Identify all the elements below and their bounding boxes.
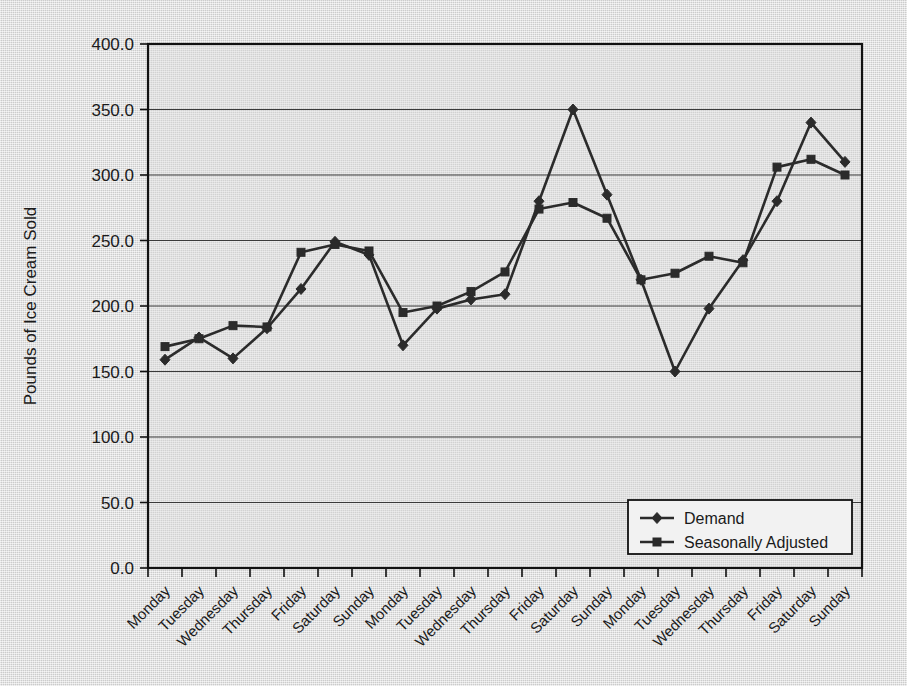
line-chart-figure: 400.0350.0300.0250.0200.0150.0100.050.00… (0, 0, 907, 686)
y-axis-ticks-group: 400.0350.0300.0250.0200.0150.0100.050.00… (91, 35, 148, 578)
data-point-marker (297, 248, 305, 256)
data-point-marker (433, 302, 441, 310)
data-point-marker (365, 247, 373, 255)
data-point-marker (671, 269, 679, 277)
data-point-marker (161, 343, 169, 351)
legend-marker-square-icon (653, 538, 661, 546)
y-tick-label: 300.0 (91, 166, 134, 185)
y-tick-label: 50.0 (101, 494, 134, 513)
data-point-marker (807, 155, 815, 163)
data-point-marker (229, 322, 237, 330)
data-point-marker (467, 288, 475, 296)
data-point-marker (841, 171, 849, 179)
data-point-marker (569, 199, 577, 207)
y-tick-label: 350.0 (91, 101, 134, 120)
data-point-marker (705, 252, 713, 260)
data-point-marker (773, 163, 781, 171)
y-tick-label: 200.0 (91, 297, 134, 316)
data-point-marker (331, 240, 339, 248)
data-point-marker (739, 259, 747, 267)
y-tick-label: 400.0 (91, 35, 134, 54)
x-axis-labels-group: MondayTuesdayWednesdayThursdayFridaySatu… (123, 582, 853, 650)
y-tick-label: 100.0 (91, 428, 134, 447)
data-point-marker (399, 309, 407, 317)
data-point-marker (501, 268, 509, 276)
chart-legend[interactable]: DemandSeasonally Adjusted (628, 500, 852, 554)
data-point-marker (263, 323, 271, 331)
data-point-marker (535, 205, 543, 213)
y-tick-label: 150.0 (91, 363, 134, 382)
y-axis-title: Pounds of Ice Cream Sold (21, 207, 40, 405)
data-point-marker (603, 214, 611, 222)
legend-label: Seasonally Adjusted (684, 534, 828, 551)
data-point-marker (637, 276, 645, 284)
chart-canvas: 400.0350.0300.0250.0200.0150.0100.050.00… (0, 0, 907, 686)
x-axis-ticks-group (148, 568, 862, 577)
legend-label: Demand (684, 510, 744, 527)
y-tick-label: 250.0 (91, 232, 134, 251)
y-tick-label: 0.0 (110, 559, 134, 578)
data-point-marker (195, 335, 203, 343)
